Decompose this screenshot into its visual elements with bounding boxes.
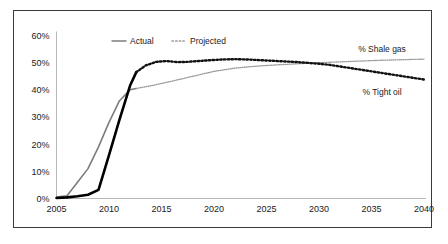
data-series-group xyxy=(57,59,425,198)
y-tick-label: 60% xyxy=(31,31,49,41)
chart-plot-area: 0%10%20%30%40%50%60% 2005201020152020202… xyxy=(0,0,448,244)
y-tick-label: 20% xyxy=(31,140,49,150)
y-tick-label: 30% xyxy=(31,112,49,122)
annotation-tightoil: % Tight oil xyxy=(362,87,401,97)
y-tick-label: 40% xyxy=(31,85,49,95)
x-tick-label: 2035 xyxy=(361,204,381,214)
x-tick-label: 2025 xyxy=(256,204,276,214)
chart-legend: ActualProjected xyxy=(112,36,226,46)
x-tick-label: 2010 xyxy=(99,204,119,214)
x-tick-label: 2015 xyxy=(151,204,171,214)
series-line-tightoil-projected xyxy=(136,59,424,79)
x-axis-tick-labels: 20052010201520202025203020352040 xyxy=(46,204,434,214)
x-tick-label: 2040 xyxy=(414,204,434,214)
y-tick-label: 10% xyxy=(31,167,49,177)
x-tick-label: 2030 xyxy=(309,204,329,214)
series-line-tightoil-actual xyxy=(57,72,137,198)
annotation-shalegas: % Shale gas xyxy=(358,44,406,54)
x-tick-label: 2005 xyxy=(46,204,66,214)
legend-label-projected: Projected xyxy=(190,36,226,46)
y-axis-tick-labels: 0%10%20%30%40%50%60% xyxy=(31,31,49,204)
x-tick-label: 2020 xyxy=(204,204,224,214)
legend-label-actual: Actual xyxy=(130,36,154,46)
y-tick-label: 0% xyxy=(36,194,49,204)
y-tick-label: 50% xyxy=(31,58,49,68)
chart-figure: 0%10%20%30%40%50%60% 2005201020152020202… xyxy=(0,0,448,244)
